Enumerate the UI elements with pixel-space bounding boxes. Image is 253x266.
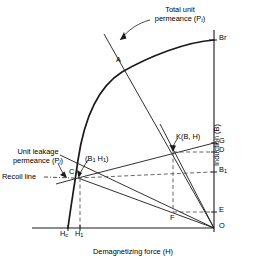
axis-tick-label-H1-sub: 1 <box>80 232 83 238</box>
annotation-b1h1-post: ) <box>106 154 108 163</box>
point-label-C: C <box>69 168 74 177</box>
annotation-ulp-pre: permeance (P <box>13 156 59 165</box>
point-label-K: K(B, H) <box>176 133 200 142</box>
y-axis-label: Induction (B) <box>213 103 222 187</box>
point-label-B1-sub: 1 <box>224 168 227 174</box>
annotation-total-unit-permeance: Total unit permeance (Pt) <box>141 6 219 24</box>
axis-tick-label-Hc: Hc <box>60 230 68 239</box>
annotation-total-unit-permeance-line2: permeance (Pt) <box>155 14 205 23</box>
axis-tick-label-Hc-sub: c <box>65 232 68 238</box>
annotation-tup-pre: permeance (P <box>155 14 201 23</box>
annotation-recoil-line: Recoil line <box>2 173 36 182</box>
point-label-O: O <box>219 222 225 231</box>
leader-recoil-line <box>44 177 74 178</box>
annotation-b1h1: (B1 H1) <box>85 155 109 164</box>
figure-container: Total unit permeance (Pt) Unit leakage p… <box>0 0 253 266</box>
leakage-line-C-O <box>78 178 214 228</box>
annotation-unit-leakage-permeance-line2: permeance (Pl) <box>13 156 63 165</box>
point-label-A: A <box>116 56 121 65</box>
axis-tick-label-H1: H1 <box>75 230 83 239</box>
unit-leakage-permeance-line <box>60 155 214 228</box>
leader-arrowhead-total-unit-permeance <box>120 32 127 40</box>
annotation-unit-leakage-permeance: Unit leakage permeance (Pl) <box>2 148 74 166</box>
annotation-ulp-post: ) <box>61 156 63 165</box>
annotation-unit-leakage-permeance-line1: Unit leakage <box>17 147 58 156</box>
point-label-F: F <box>170 214 175 223</box>
x-axis-label: Demagnetizing force (H) <box>63 248 203 257</box>
point-label-E: E <box>219 206 224 215</box>
point-label-Br: Br <box>219 34 226 43</box>
annotation-b1h1-mid: H <box>96 154 103 163</box>
leader-arrowhead-unit-leakage-permeance <box>60 172 67 179</box>
annotation-total-unit-permeance-line1: Total unit <box>165 5 195 14</box>
annotation-tup-post: ) <box>203 14 205 23</box>
